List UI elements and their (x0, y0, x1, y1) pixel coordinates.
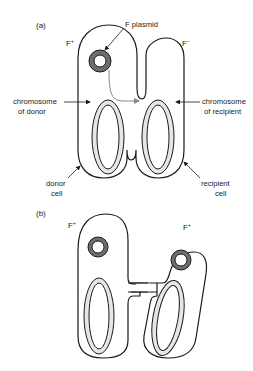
panel-b-label: (b) (36, 209, 46, 218)
donor-cell-label-2: cell (51, 189, 63, 198)
f-plasmid-label: F plasmid (125, 20, 158, 29)
chromosome-donor-label-1: chromosome (13, 97, 57, 106)
chromosome-donor-label-2: of donor (18, 107, 46, 116)
recipient-cell-label-2: cell (215, 189, 227, 198)
chromosome-recipient-label-2: of recipient (204, 107, 242, 116)
recipient-cell-label-1: recipient (201, 179, 231, 188)
recipient-f-state: F− (182, 38, 190, 48)
bacterial-conjugation-diagram: (a) F plasmid F+ F− chromosome of donor … (0, 0, 253, 371)
donor-cell-label-1: donor (46, 179, 66, 188)
right-f-state: F+ (183, 222, 191, 232)
panel-a-label: (a) (36, 21, 46, 30)
left-f-state: F+ (68, 220, 76, 230)
donor-f-state: F+ (66, 38, 74, 48)
chromosome-recipient-label-1: chromosome (202, 97, 246, 106)
